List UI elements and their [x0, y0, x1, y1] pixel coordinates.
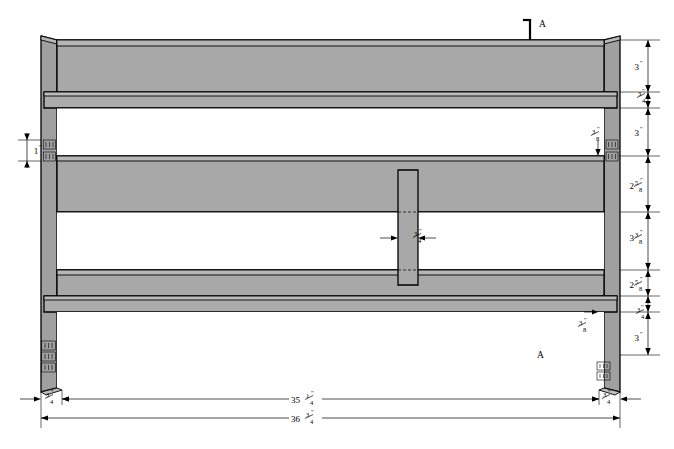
right-dimension-chain: 3 " 3 " 4 3 " 2 5 " 8 3 3 " 8 2 — [620, 40, 660, 355]
right-dim-label-1: 3 " — [635, 59, 644, 72]
bottom-dim-36-whole: 36 — [291, 414, 301, 424]
arrow-r6b — [645, 289, 651, 296]
arrow-r7b — [645, 305, 651, 312]
right-dim-label-2: 3 " 4 — [637, 87, 646, 104]
arrow-r2b — [645, 101, 651, 108]
middle-upper-panel-highlight — [57, 156, 604, 161]
inner-dim-1-den: 8 — [596, 135, 599, 142]
middle-upper-panel — [57, 156, 604, 212]
right-dim-7-den: 4 — [641, 313, 645, 320]
right-dim-5-den: 8 — [639, 238, 642, 245]
top-panel-face — [57, 40, 604, 96]
arrow-r3b — [645, 149, 651, 156]
bottom-dimension-chain: 35 1 " 4 36 3 " 4 3 " 4 3 " 4 — [20, 388, 641, 428]
top-rail — [44, 92, 617, 108]
top-panel — [57, 40, 604, 96]
inner-dim-1-unit: " — [597, 125, 600, 132]
right-dim-1-value: 3 — [635, 62, 640, 72]
arrow-r4b — [645, 205, 651, 212]
right-dim-8-unit: " — [640, 330, 643, 337]
technical-drawing-canvas: 3 " 3 " 4 3 " 2 5 " 8 3 3 " 8 2 — [0, 0, 674, 449]
top-panel-highlight — [57, 40, 604, 46]
left-post — [41, 36, 57, 392]
bottom-rail-highlight — [44, 296, 617, 300]
center-dim-unit: " — [419, 227, 422, 234]
bottom-dim-36-den: 4 — [310, 418, 314, 425]
right-dim-5-whole: 3 — [630, 233, 635, 243]
arrow-r4a — [645, 156, 651, 163]
bottom-dim-left-den: 4 — [50, 398, 54, 405]
arrow-r8a — [645, 312, 651, 319]
right-dim-4-unit: " — [640, 176, 643, 183]
right-dim-4-whole: 2 — [630, 181, 635, 191]
right-dim-7-unit: " — [641, 303, 644, 310]
right-dim-8-value: 3 — [635, 333, 640, 343]
upper-void — [57, 108, 604, 156]
bottom-dim-36-unit: " — [311, 408, 314, 415]
arrow-b36-right — [613, 415, 620, 420]
inner-dim-2-unit: " — [584, 316, 587, 323]
right-dim-2-den: 4 — [642, 97, 646, 104]
right-post — [604, 36, 620, 392]
right-dim-5-unit: " — [640, 228, 643, 235]
left-dim-1-value: 1 — [34, 146, 39, 156]
arrow-r3a — [645, 108, 651, 115]
arrow-l2 — [24, 161, 30, 168]
right-dim-3-value: 3 — [635, 128, 640, 138]
right-dim-label-6: 2 5 " 8 — [630, 275, 644, 292]
right-dim-6-den: 8 — [639, 285, 642, 292]
top-rail-highlight — [44, 92, 617, 96]
left-dimension-1-inch: 1 " — [18, 133, 42, 168]
right-dim-label-5: 3 3 " 8 — [630, 228, 644, 245]
arrow-l1 — [24, 134, 30, 141]
right-dim-3-unit: " — [640, 125, 643, 132]
right-dim-6-unit: " — [640, 275, 643, 282]
left-dim-1-unit: " — [39, 143, 42, 150]
right-dim-2-unit: " — [642, 87, 645, 94]
arrow-bl-out — [62, 396, 69, 401]
bottom-dim-right-den: 4 — [607, 398, 611, 405]
arrow-r2a — [645, 92, 651, 99]
bottom-dim-35-whole: 35 — [291, 395, 301, 405]
bottom-rail — [44, 296, 617, 312]
section-label-bottom: A — [537, 350, 544, 360]
arrow-r1b — [645, 85, 651, 92]
right-dim-label-3: 3 " — [635, 125, 644, 138]
right-dim-label-4: 2 5 " 8 — [630, 176, 644, 193]
arrow-r8b — [645, 348, 651, 355]
arrow-r5b — [645, 263, 651, 270]
right-post-face — [604, 36, 620, 392]
arrow-r7a — [645, 296, 651, 303]
middle-upper-panel-face — [57, 156, 604, 212]
arrow-r5a — [645, 212, 651, 219]
arrow-bl-in — [34, 396, 41, 401]
headboard-elevation-svg: 3 " 3 " 4 3 " 2 5 " 8 3 3 " 8 2 — [0, 0, 674, 449]
section-label-top: A — [539, 19, 546, 29]
arrow-br-in — [620, 396, 627, 401]
inner-dim-2-den: 8 — [583, 326, 586, 333]
left-post-face — [41, 36, 57, 392]
bottom-dim-right-unit: " — [608, 388, 611, 395]
arrow-br-out — [592, 396, 599, 401]
arrow-b36-left — [41, 415, 48, 420]
middle-lower-panel-highlight — [57, 270, 604, 275]
right-dim-4-den: 8 — [639, 186, 642, 193]
middle-void — [57, 212, 604, 270]
bottom-dim-left-unit: " — [51, 388, 54, 395]
right-dim-label-7: 3 " 4 — [636, 303, 645, 320]
arrow-r6a — [645, 270, 651, 277]
lower-void — [57, 312, 604, 390]
bottom-dim-35-den: 4 — [310, 399, 314, 406]
bottom-dim-35-unit: " — [311, 389, 314, 396]
right-dim-label-8: 3 " — [635, 330, 644, 343]
arrow-r1a — [645, 40, 651, 47]
right-dim-6-whole: 2 — [630, 280, 635, 290]
center-slat-face — [398, 170, 418, 285]
center-vertical-slat — [398, 170, 418, 285]
right-dim-1-unit: " — [640, 59, 643, 66]
